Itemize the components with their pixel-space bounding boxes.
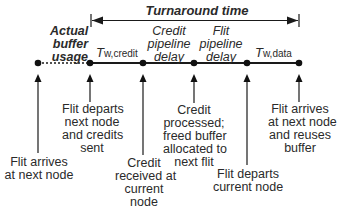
- label-line: buffer: [268, 142, 332, 155]
- event-flit-arrives-reuses-buffer: Flit arrives at next node and reuses buf…: [268, 103, 332, 155]
- event-flit-departs-next-node: Flit departs next node and credits sent: [62, 103, 122, 155]
- credit-pipeline-delay-label: Credit pipeline delay: [146, 25, 192, 64]
- event-credit-processed: Credit processed; freed buffer allocated…: [163, 104, 225, 169]
- t-symbol: T: [255, 45, 263, 60]
- flit-pipeline-delay-label: Flit pipeline delay: [197, 25, 245, 64]
- label-line: delay: [197, 51, 245, 64]
- t-w-credit-label: Tw,credit: [96, 46, 138, 60]
- turnaround-time-label: Turnaround time: [142, 4, 252, 17]
- label-line: node: [115, 196, 173, 209]
- t-subscript: w,credit: [104, 48, 138, 59]
- label-line: current node: [212, 181, 284, 194]
- t-w-data-label: Tw,data: [255, 46, 297, 60]
- label-line: delay: [146, 51, 192, 64]
- t-subscript: w,data: [263, 48, 292, 59]
- actual-buffer-usage-label: Actual buffer usage: [50, 25, 88, 64]
- t-symbol: T: [96, 45, 104, 60]
- event-flit-departs-current-node: Flit departs current node: [212, 168, 284, 194]
- label-line: sent: [62, 142, 122, 155]
- event-flit-arrives-next-node: Flit arrives at next node: [4, 156, 74, 182]
- label-line: usage: [50, 51, 88, 64]
- label-line: at next node: [4, 169, 74, 182]
